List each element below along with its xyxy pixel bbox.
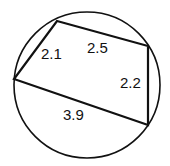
side-label-da: 2.1 xyxy=(41,45,62,62)
side-label-ab: 2.5 xyxy=(87,39,108,56)
diagram-canvas: 2.1 2.5 2.2 3.9 xyxy=(0,0,170,166)
side-label-bc: 2.2 xyxy=(120,74,141,91)
cyclic-quadrilateral-figure: 2.1 2.5 2.2 3.9 xyxy=(0,0,170,166)
side-label-cd: 3.9 xyxy=(63,106,84,123)
